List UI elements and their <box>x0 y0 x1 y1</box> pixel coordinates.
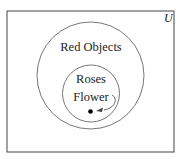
roses-label: Roses <box>76 72 106 87</box>
arrowhead-icon <box>96 108 103 113</box>
red-objects-label: Red Objects <box>60 40 121 55</box>
universe-label: U <box>164 11 173 26</box>
flower-dot <box>88 109 93 114</box>
flower-label: Flower <box>73 90 108 105</box>
